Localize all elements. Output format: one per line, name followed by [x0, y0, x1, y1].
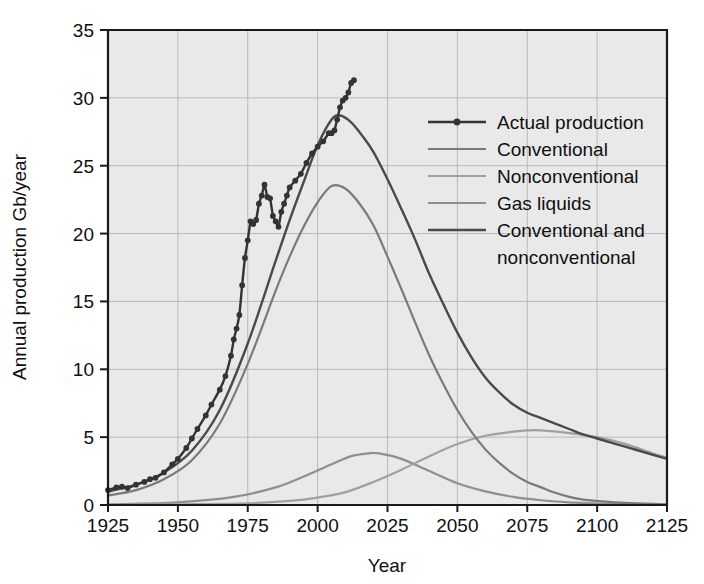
y-tick-label: 30 [73, 88, 94, 109]
data-point-marker [203, 413, 209, 419]
x-axis-ticks: 192519501975200020252050207521002125 [87, 505, 688, 536]
y-tick-label: 20 [73, 224, 94, 245]
data-point-marker [161, 470, 167, 476]
data-point-marker [195, 426, 201, 432]
x-tick-label: 2075 [506, 515, 548, 536]
data-point-marker [292, 178, 298, 184]
data-point-marker [270, 213, 276, 219]
data-point-marker [320, 138, 326, 144]
y-tick-label: 15 [73, 291, 94, 312]
legend-entry: nonconventional [497, 247, 635, 268]
data-point-marker [343, 95, 349, 101]
data-point-marker [245, 237, 251, 243]
data-point-marker [239, 282, 245, 288]
data-point-marker [351, 77, 357, 83]
data-point-marker [281, 201, 287, 207]
data-point-marker [267, 195, 273, 201]
data-point-marker [133, 482, 139, 488]
data-point-marker [284, 193, 290, 199]
data-point-marker [334, 117, 340, 123]
legend-swatch-marker [454, 119, 461, 126]
data-point-marker [231, 337, 237, 343]
data-point-marker [222, 373, 228, 379]
data-point-marker [298, 171, 304, 177]
data-point-marker [189, 436, 195, 442]
data-point-marker [141, 479, 147, 485]
data-point-marker [234, 326, 240, 332]
x-tick-label: 2000 [296, 515, 338, 536]
y-tick-label: 5 [83, 427, 94, 448]
legend-label: Gas liquids [497, 193, 591, 214]
data-point-marker [183, 445, 189, 451]
y-axis-title: Annual production Gb/year [9, 153, 30, 380]
chart-figure: 192519501975200020252050207521002125 051… [0, 0, 704, 584]
data-point-marker [228, 353, 234, 359]
y-tick-label: 35 [73, 20, 94, 41]
data-point-marker [276, 224, 282, 230]
legend-label: Conventional [497, 139, 608, 160]
data-point-marker [315, 144, 321, 150]
data-point-marker [337, 104, 343, 110]
x-tick-label: 1925 [87, 515, 129, 536]
y-tick-label: 10 [73, 359, 94, 380]
data-point-marker [113, 484, 119, 490]
data-point-marker [287, 185, 293, 191]
x-axis-title: Year [368, 555, 407, 576]
y-tick-label: 0 [83, 495, 94, 516]
data-point-marker [256, 201, 262, 207]
data-point-marker [209, 402, 215, 408]
data-point-marker [217, 387, 223, 393]
data-point-marker [309, 151, 315, 157]
data-point-marker [345, 90, 351, 96]
data-point-marker [169, 461, 175, 467]
data-point-marker [262, 182, 268, 188]
data-point-marker [119, 484, 125, 490]
legend-label: nonconventional [497, 247, 635, 268]
data-point-marker [175, 456, 181, 462]
data-point-marker [242, 255, 248, 261]
data-point-marker [125, 485, 131, 491]
data-point-marker [273, 218, 279, 224]
data-point-marker [236, 312, 242, 318]
data-point-marker [259, 193, 265, 199]
x-tick-label: 2125 [646, 515, 688, 536]
y-tick-label: 25 [73, 156, 94, 177]
data-point-marker [304, 160, 310, 166]
legend-label: Actual production [497, 112, 644, 133]
x-tick-label: 2050 [436, 515, 478, 536]
data-point-marker [153, 475, 159, 481]
x-tick-label: 2100 [576, 515, 618, 536]
data-point-marker [331, 128, 337, 134]
legend-label: Conventional and [497, 220, 645, 241]
data-point-marker [278, 209, 284, 215]
x-tick-label: 2025 [366, 515, 408, 536]
data-point-marker [147, 476, 153, 482]
data-point-marker [253, 217, 259, 223]
legend-label: Nonconventional [497, 166, 639, 187]
chart-svg: 192519501975200020252050207521002125 051… [0, 0, 704, 584]
x-tick-label: 1975 [227, 515, 269, 536]
x-tick-label: 1950 [157, 515, 199, 536]
